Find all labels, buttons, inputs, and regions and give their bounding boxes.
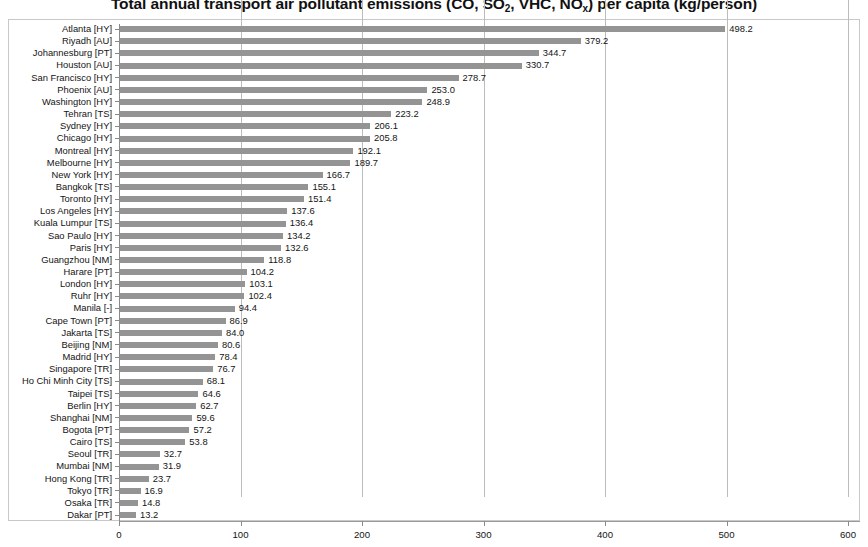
bar[interactable] xyxy=(120,123,370,129)
bar[interactable] xyxy=(120,99,422,105)
category-label: Tokyo [TR] xyxy=(0,486,112,496)
bar[interactable] xyxy=(120,464,159,470)
bar[interactable] xyxy=(120,293,244,299)
bar-value-label: 134.2 xyxy=(287,231,310,241)
bar[interactable] xyxy=(120,136,370,142)
bar[interactable] xyxy=(120,148,353,154)
bar-value-label: 86.9 xyxy=(230,316,248,326)
category-label: Ho Chi Minh City [TS] xyxy=(0,376,112,386)
y-axis-tick xyxy=(115,490,119,491)
y-axis-tick xyxy=(115,150,119,151)
bar-row: Montreal [HY]192.1 xyxy=(0,146,868,159)
category-label: Phoenix [AU] xyxy=(0,85,112,95)
bar[interactable] xyxy=(120,245,281,251)
y-axis-tick xyxy=(115,357,119,358)
bar-value-label: 53.8 xyxy=(189,437,207,447)
bar[interactable] xyxy=(120,38,581,44)
bar[interactable] xyxy=(120,379,203,385)
y-axis-tick xyxy=(115,101,119,102)
bar-row: Dakar [PT]13.2 xyxy=(0,510,868,523)
bar[interactable] xyxy=(120,221,286,227)
bar[interactable] xyxy=(120,391,198,397)
bar[interactable] xyxy=(120,488,141,494)
bar-value-label: 103.1 xyxy=(249,279,272,289)
bar[interactable] xyxy=(120,451,160,457)
bar-value-label: 189.7 xyxy=(354,158,377,168)
y-axis-tick xyxy=(115,429,119,430)
bar[interactable] xyxy=(120,306,235,312)
y-axis-tick xyxy=(115,174,119,175)
y-axis-tick xyxy=(115,332,119,333)
bar-value-label: 13.2 xyxy=(140,510,158,520)
bar-row: Johannesburg [PT]344.7 xyxy=(0,48,868,61)
y-axis-tick xyxy=(115,223,119,224)
bar-row: Atlanta [HY]498.2 xyxy=(0,24,868,37)
bar-value-label: 14.8 xyxy=(142,498,160,508)
bar[interactable] xyxy=(120,330,222,336)
bar[interactable] xyxy=(120,184,308,190)
bar-row: Paris [HY]132.6 xyxy=(0,243,868,256)
y-axis-tick xyxy=(115,29,119,30)
bar-row: Shanghai [NM]59.6 xyxy=(0,413,868,426)
bar[interactable] xyxy=(120,354,215,360)
bar[interactable] xyxy=(120,269,247,275)
chart-title: Total annual transport air pollutant emi… xyxy=(0,0,868,14)
bar[interactable] xyxy=(120,63,522,69)
bar-value-label: 118.8 xyxy=(268,255,291,265)
bar[interactable] xyxy=(120,111,391,117)
y-axis-tick xyxy=(115,454,119,455)
y-axis-tick xyxy=(115,89,119,90)
y-axis-tick xyxy=(115,186,119,187)
x-axis-label-300: 300 xyxy=(475,529,491,540)
bar[interactable] xyxy=(120,427,189,433)
bar[interactable] xyxy=(120,208,287,214)
bar[interactable] xyxy=(120,439,185,445)
bar-value-label: 137.6 xyxy=(291,206,314,216)
bar[interactable] xyxy=(120,318,226,324)
bar[interactable] xyxy=(120,281,245,287)
category-label: Sao Paulo [HY] xyxy=(0,231,112,241)
bar[interactable] xyxy=(120,172,323,178)
bar-value-label: 330.7 xyxy=(526,60,549,70)
bar-row: Osaka [TR]14.8 xyxy=(0,498,868,511)
chart-title-tail: ) per capita (kg/person) xyxy=(588,0,757,12)
bar[interactable] xyxy=(120,160,350,166)
bar-value-label: 32.7 xyxy=(164,449,182,459)
bar-row: Ho Chi Minh City [TS]68.1 xyxy=(0,376,868,389)
bar[interactable] xyxy=(120,233,283,239)
bar[interactable] xyxy=(120,512,136,518)
y-axis-tick xyxy=(115,114,119,115)
bar[interactable] xyxy=(120,87,427,93)
bar-row: Mumbai [NM]31.9 xyxy=(0,461,868,474)
bar-value-label: 132.6 xyxy=(285,243,308,253)
category-label: Guangzhou [NM] xyxy=(0,255,112,265)
x-axis-tick-600 xyxy=(848,521,849,526)
y-axis-tick xyxy=(115,369,119,370)
bar[interactable] xyxy=(120,403,196,409)
y-axis-tick xyxy=(115,502,119,503)
x-axis-label-100: 100 xyxy=(232,529,248,540)
bar[interactable] xyxy=(120,50,539,56)
bar[interactable] xyxy=(120,476,149,482)
bar-value-label: 31.9 xyxy=(163,461,181,471)
bar[interactable] xyxy=(120,196,304,202)
bar[interactable] xyxy=(120,26,725,32)
bar[interactable] xyxy=(120,415,192,421)
y-axis-tick xyxy=(115,162,119,163)
x-axis-label-600: 600 xyxy=(840,529,856,540)
bar[interactable] xyxy=(120,75,459,81)
y-axis-tick xyxy=(115,199,119,200)
bar[interactable] xyxy=(120,366,213,372)
y-axis-tick xyxy=(115,381,119,382)
bar-row: Beijing [NM]80.6 xyxy=(0,340,868,353)
y-axis-tick xyxy=(115,126,119,127)
bar-value-label: 166.7 xyxy=(327,170,350,180)
y-axis-tick xyxy=(115,77,119,78)
category-label: Madrid [HY] xyxy=(0,352,112,362)
bar-value-label: 64.6 xyxy=(202,389,220,399)
bar[interactable] xyxy=(120,257,264,263)
bar[interactable] xyxy=(120,500,138,506)
bar[interactable] xyxy=(120,342,218,348)
bar-row: Berlin [HY]62.7 xyxy=(0,401,868,414)
bar-row: Guangzhou [NM]118.8 xyxy=(0,255,868,268)
